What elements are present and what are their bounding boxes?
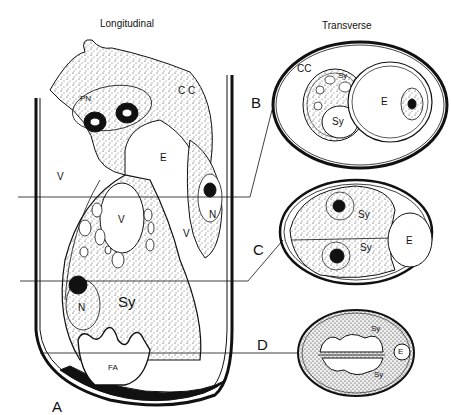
label-egg-cell: E [160,153,167,163]
label-c-egg: E [406,236,413,246]
section-marker-b: B [251,95,261,110]
label-central-cell: C C [178,86,195,96]
transverse-section-c [280,180,432,284]
title-transverse: Transverse [322,21,372,31]
longitudinal-section [36,40,232,405]
label-c-synergid-bottom: Sy [360,243,372,253]
label-vacuole-left: V [57,172,64,182]
label-c-synergid-top: Sy [358,210,370,220]
section-marker-d: D [257,337,268,352]
section-marker-c: C [253,242,264,257]
label-b-synergid-bottom: Sy [332,117,344,127]
label-vacuole-right: V [183,229,190,239]
label-egg-nucleus: N [209,210,216,220]
label-b-synergid-top: Sy [338,72,347,80]
transverse-section-b [273,42,447,168]
label-d-synergid-top: Sy [371,325,380,333]
label-polar-nuclei: PN [80,95,91,103]
label-synergid: Sy [118,294,136,309]
label-d-egg: E [398,348,403,356]
transverse-section-d [298,310,414,396]
label-b-egg: E [381,97,388,107]
label-vacuole-center: V [118,215,125,225]
label-filiform-apparatus: FA [108,364,118,372]
label-synergid-nucleus: N [78,303,85,313]
label-d-synergid-bottom: Sy [374,371,383,379]
title-longitudinal: Longitudinal [100,19,154,29]
section-marker-a: A [52,399,62,414]
label-b-central-cell: CC [297,64,311,74]
